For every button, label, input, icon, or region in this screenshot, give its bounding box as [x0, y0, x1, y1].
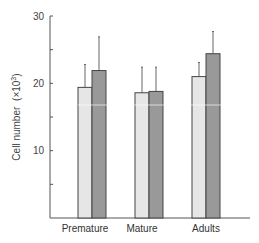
bars — [78, 31, 235, 218]
bar — [192, 77, 206, 218]
y-tick-20: 20 — [33, 78, 45, 89]
category-label-mature: Mature — [126, 223, 158, 234]
y-axis-label: Cell number (×103) — [10, 73, 22, 160]
svg-text:Cell number (×103): Cell number (×103) — [10, 73, 22, 160]
bar — [92, 71, 106, 218]
bar — [135, 93, 149, 218]
category-label-adults: Adults — [192, 223, 220, 234]
y-tick-30: 30 — [33, 11, 45, 22]
y-tick-10: 10 — [33, 145, 45, 156]
bar — [206, 54, 220, 218]
bar — [78, 87, 92, 218]
bar — [149, 91, 163, 218]
category-label-premature: Premature — [62, 223, 109, 234]
bar-chart: 10 20 30 Premature Mature Adults Cell nu… — [0, 0, 259, 243]
